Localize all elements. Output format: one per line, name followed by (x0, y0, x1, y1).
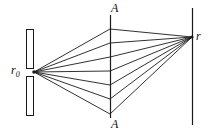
observation-label: r (196, 30, 201, 42)
incident-ray-bundle (34, 29, 110, 114)
source-label-subscript: 0 (16, 70, 20, 79)
aperture-label-bottom: A (111, 118, 118, 130)
barrier-lower-plate (27, 77, 34, 116)
incident-ray-2 (34, 43, 110, 72)
incident-ray-4 (34, 71, 110, 72)
ray-diagram-figure: A A r0 r (0, 0, 214, 132)
incident-ray-3 (34, 57, 110, 72)
source-point-marker (32, 70, 36, 74)
diffracted-ray-1 (110, 29, 192, 37)
diffracted-ray-6 (110, 37, 192, 99)
incident-ray-1 (34, 29, 110, 72)
barrier-upper-plate (27, 30, 34, 69)
diffracted-ray-bundle (110, 29, 192, 114)
aperture-label-top: A (111, 2, 118, 14)
diffracted-ray-5 (110, 37, 192, 85)
convergence-point-marker (190, 35, 193, 38)
source-label: r0 (11, 64, 20, 79)
incident-ray-6 (34, 72, 110, 99)
diffracted-ray-7 (110, 37, 192, 114)
ray-diagram-canvas (0, 0, 214, 132)
